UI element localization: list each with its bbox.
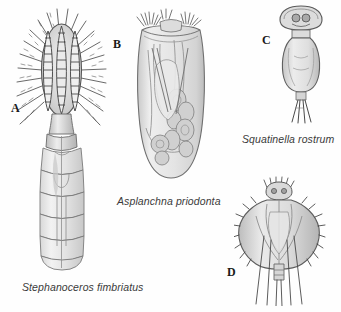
head (266, 182, 292, 200)
neck (292, 30, 310, 38)
figure-panel-b (130, 8, 212, 188)
figure-panel-d (234, 176, 326, 306)
figure-panel-a (14, 6, 110, 272)
lorica-trunk (282, 38, 319, 92)
panel-letter-a: A (11, 101, 20, 116)
trunk-segments (40, 148, 84, 270)
caption-asplanchna-priodonta: Asplanchna priodonta (117, 195, 221, 207)
caption-squatinella-rostrum: Squatinella rostrum (242, 133, 334, 145)
foot (296, 92, 306, 100)
panel-letter-b: B (113, 37, 122, 52)
neck-segment (49, 114, 74, 134)
panel-letter-c: C (262, 33, 271, 48)
figure-panel-c (272, 4, 330, 124)
illustration-plate: A Stephanoceros fimbriatus (0, 0, 341, 312)
corona-arms (44, 26, 80, 114)
foot (274, 264, 284, 280)
toes (292, 100, 311, 123)
apical-field (160, 20, 182, 33)
panel-letter-d: D (227, 265, 236, 280)
caption-stephanoceros-fimbriatus: Stephanoceros fimbriatus (22, 281, 143, 293)
